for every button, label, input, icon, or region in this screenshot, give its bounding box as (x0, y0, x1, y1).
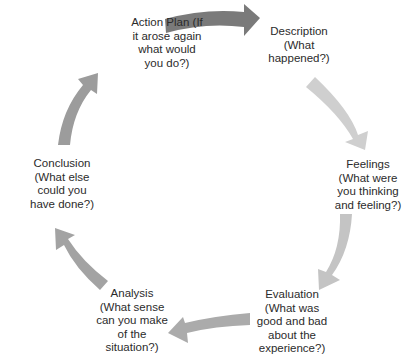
node-evaluation: Evaluation (What was good and bad about … (252, 288, 332, 356)
node-text: what would (117, 43, 217, 57)
node-text: you thinking (325, 185, 411, 199)
arrow-description-to-feelings (306, 77, 368, 150)
node-text: good and bad (252, 315, 332, 329)
arrow-feelings-to-evaluation (318, 214, 352, 290)
node-title: Feelings (325, 158, 411, 172)
node-title: Evaluation (252, 288, 332, 302)
node-text: it arose again (117, 30, 217, 44)
node-title: Description (259, 25, 339, 39)
node-text: experience?) (252, 342, 332, 356)
node-text: (What was (252, 302, 332, 316)
node-feelings: Feelings (What were you thinking and fee… (325, 158, 411, 212)
node-text: of the (92, 328, 172, 342)
node-text: you do?) (117, 57, 217, 71)
node-text: (What else (20, 171, 104, 185)
node-text: (What sense (92, 301, 172, 315)
node-text: have done?) (20, 198, 104, 212)
arrow-analysis-to-conclusion (55, 228, 108, 290)
node-conclusion: Conclusion (What else could you have don… (20, 157, 104, 211)
arrow-evaluation-to-analysis (168, 313, 250, 343)
node-text: and feeling?) (325, 199, 411, 213)
node-title: Action Plan (If (117, 16, 217, 30)
node-title: Conclusion (20, 157, 104, 171)
node-text: can you make (92, 314, 172, 328)
node-text: (What were (325, 172, 411, 186)
node-analysis: Analysis (What sense can you make of the… (92, 287, 172, 355)
node-text: about the (252, 329, 332, 343)
node-text: situation?) (92, 341, 172, 355)
node-description: Description (What happened?) (259, 25, 339, 66)
arrow-conclusion-to-action (58, 73, 98, 145)
node-text: could you (20, 184, 104, 198)
node-text: (What (259, 39, 339, 53)
node-title: Analysis (92, 287, 172, 301)
node-text: happened?) (259, 52, 339, 66)
node-action-plan: Action Plan (If it arose again what woul… (117, 16, 217, 70)
